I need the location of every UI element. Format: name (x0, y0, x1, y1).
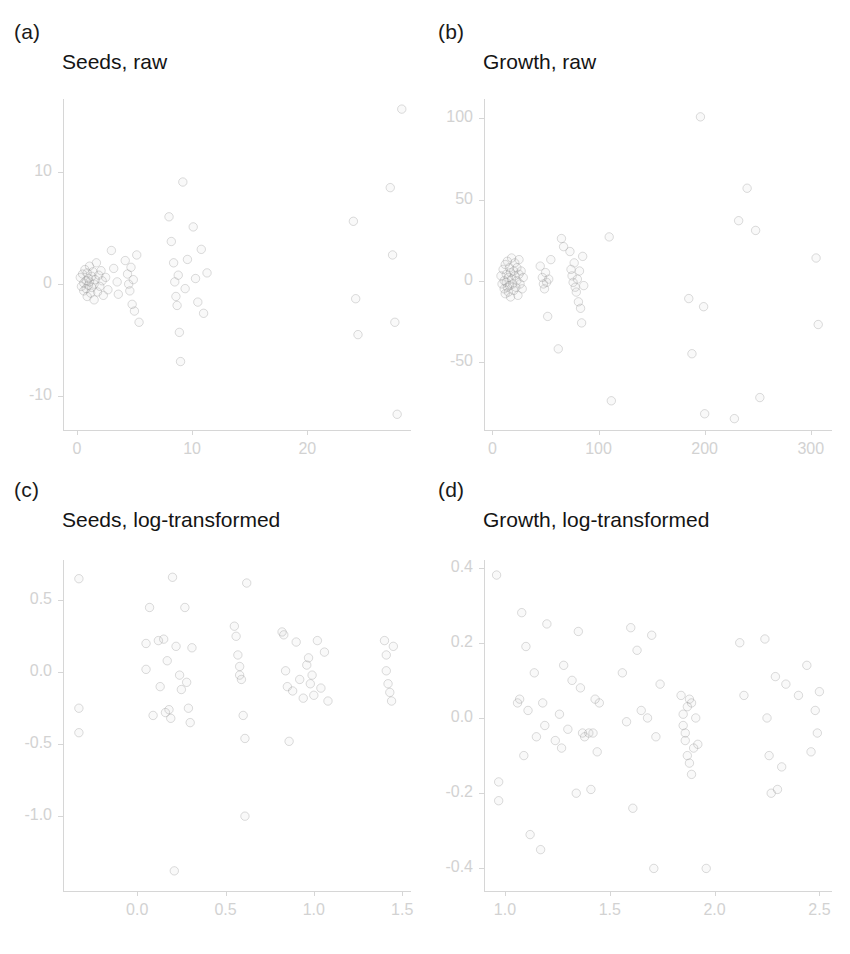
data-point (652, 733, 660, 741)
x-tick-label-d-3: 2.5 (779, 901, 850, 919)
data-point (811, 706, 819, 714)
x-tick-d-0 (505, 891, 506, 896)
data-point (677, 691, 685, 699)
scatter-points-d (484, 560, 832, 891)
y-tick-label-d-1: 0.2 (420, 633, 473, 651)
data-point (576, 684, 584, 692)
data-point (771, 672, 779, 680)
data-point (526, 830, 534, 838)
data-point (532, 733, 540, 741)
data-point (692, 714, 700, 722)
data-point (643, 714, 651, 722)
data-point (622, 718, 630, 726)
data-point (522, 642, 530, 650)
y-tick-label-d-4: -0.4 (420, 858, 473, 876)
data-point (629, 804, 637, 812)
data-point (557, 744, 565, 752)
panel-d: (d)Growth, log-transformed0.40.20.0-0.2-… (0, 0, 850, 954)
x-tick-d-3 (819, 891, 820, 896)
x-axis-line-d (484, 891, 832, 892)
data-point (685, 759, 693, 767)
data-point (815, 687, 823, 695)
data-point (551, 736, 559, 744)
plot-area-d: 0.40.20.0-0.2-0.41.01.52.02.5 (484, 560, 832, 891)
data-point (524, 706, 532, 714)
x-tick-d-1 (610, 891, 611, 896)
data-point (593, 748, 601, 756)
data-point (740, 691, 748, 699)
data-point (515, 695, 523, 703)
data-point (687, 770, 695, 778)
data-point (492, 571, 500, 579)
data-point (543, 620, 551, 628)
data-point (494, 778, 502, 786)
data-point (568, 676, 576, 684)
data-point (518, 608, 526, 616)
data-point (536, 845, 544, 853)
data-point (763, 714, 771, 722)
data-point (559, 661, 567, 669)
data-point (587, 785, 595, 793)
figure-root: (a)Seeds, raw100-1001020(b)Growth, raw10… (0, 0, 850, 954)
x-tick-d-2 (715, 891, 716, 896)
data-point (694, 740, 702, 748)
data-point (765, 751, 773, 759)
data-point (777, 763, 785, 771)
y-tick-label-d-0: 0.4 (420, 558, 473, 576)
data-point (773, 785, 781, 793)
data-point (494, 797, 502, 805)
data-point (650, 864, 658, 872)
data-point (782, 680, 790, 688)
y-tick-label-d-2: 0.0 (420, 708, 473, 726)
data-point (520, 751, 528, 759)
x-tick-label-d-0: 1.0 (465, 901, 545, 919)
data-point (555, 710, 563, 718)
data-point (633, 646, 641, 654)
data-point (589, 729, 597, 737)
data-point (803, 661, 811, 669)
data-point (572, 789, 580, 797)
x-tick-label-d-2: 2.0 (675, 901, 755, 919)
data-point (736, 639, 744, 647)
data-point (539, 699, 547, 707)
data-point (807, 748, 815, 756)
data-point (794, 691, 802, 699)
data-point (702, 864, 710, 872)
data-point (530, 669, 538, 677)
data-point (637, 706, 645, 714)
x-tick-label-d-1: 1.5 (570, 901, 650, 919)
data-point (679, 710, 687, 718)
data-point (656, 680, 664, 688)
data-point (813, 729, 821, 737)
data-point (564, 725, 572, 733)
y-tick-label-d-3: -0.2 (420, 783, 473, 801)
data-point (681, 736, 689, 744)
data-point (627, 624, 635, 632)
panel-title-d: Growth, log-transformed (483, 508, 709, 532)
data-point (574, 627, 582, 635)
data-point (648, 631, 656, 639)
data-point (595, 699, 603, 707)
data-point (618, 669, 626, 677)
data-point (761, 635, 769, 643)
panel-label-d: (d) (438, 478, 464, 502)
data-point (541, 721, 549, 729)
data-point (687, 699, 695, 707)
